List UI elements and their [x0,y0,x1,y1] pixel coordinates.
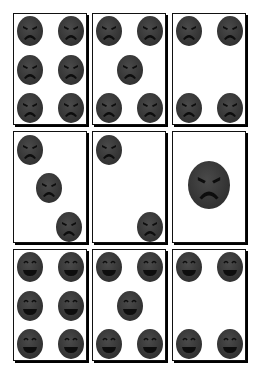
angry-face-icon [137,16,163,46]
angry-face-icon [188,161,230,209]
happy-face-icon [17,329,43,359]
happy-face-icon [17,252,43,282]
card-angry-6[interactable] [13,13,87,125]
happy-face-icon [176,329,202,359]
angry-face-icon [217,93,243,123]
happy-face-icon [176,252,202,282]
happy-face-icon [137,252,163,282]
happy-face-icon [217,252,243,282]
angry-face-icon [96,135,122,165]
card-angry-1[interactable] [172,131,246,243]
angry-face-icon [17,93,43,123]
card-angry-4[interactable] [172,13,246,125]
angry-face-icon [17,16,43,46]
angry-face-icon [96,16,122,46]
angry-face-icon [137,212,163,242]
angry-face-icon [176,16,202,46]
angry-face-icon [36,173,62,203]
happy-face-icon [117,291,143,321]
angry-face-icon [56,212,82,242]
card-happy-4[interactable] [172,249,246,361]
angry-face-icon [117,55,143,85]
happy-face-icon [96,329,122,359]
angry-face-icon [137,93,163,123]
angry-face-icon [176,93,202,123]
happy-face-icon [96,252,122,282]
angry-face-icon [58,93,84,123]
card-angry-5[interactable] [92,13,166,125]
happy-face-icon [17,291,43,321]
card-angry-2[interactable] [92,131,166,243]
angry-face-icon [17,55,43,85]
happy-face-icon [58,329,84,359]
happy-face-icon [58,291,84,321]
card-happy-6[interactable] [13,249,87,361]
angry-face-icon [217,16,243,46]
angry-face-icon [96,93,122,123]
card-happy-5[interactable] [92,249,166,361]
angry-face-icon [58,16,84,46]
happy-face-icon [137,329,163,359]
angry-face-icon [17,135,43,165]
happy-face-icon [58,252,84,282]
happy-face-icon [217,329,243,359]
angry-face-icon [58,55,84,85]
card-angry-3[interactable] [13,131,87,243]
